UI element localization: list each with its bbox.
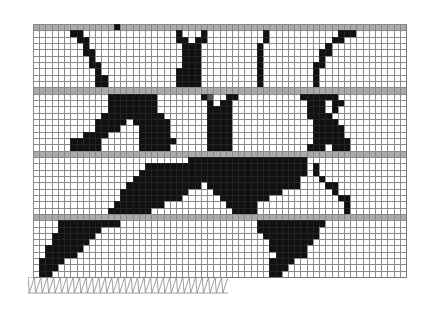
element-grid (33, 24, 407, 278)
fixed-support-hatch-icon (28, 277, 228, 295)
grid-cell (400, 271, 406, 277)
